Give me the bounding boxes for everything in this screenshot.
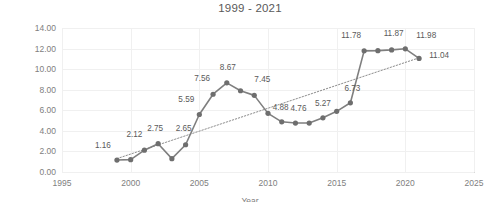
data-point: [210, 92, 215, 97]
data-point-label: 6.73: [332, 84, 372, 93]
data-point: [362, 48, 367, 53]
y-tick-label: 6.00: [10, 105, 56, 115]
data-point-label: 5.59: [166, 95, 206, 104]
data-point-label: 1.16: [83, 141, 123, 150]
data-point: [375, 48, 380, 53]
data-point-label: 11.98: [406, 31, 446, 40]
x-tick-label: 2010: [248, 178, 288, 188]
x-tick-label: 2000: [111, 178, 151, 188]
data-point-label: 2.65: [164, 124, 204, 133]
data-point-label: 5.27: [303, 99, 343, 108]
data-point: [156, 141, 161, 146]
data-point: [320, 115, 325, 120]
data-point-label: 11.78: [331, 31, 371, 40]
plot-area: 1.162.122.752.655.597.568.677.454.884.76…: [62, 28, 474, 172]
series-layer: [62, 28, 474, 172]
data-point: [279, 119, 284, 124]
data-point-label: 8.67: [208, 63, 248, 72]
x-tick-label: 2025: [454, 178, 494, 188]
h-gridline: [62, 172, 474, 173]
x-axis-title: Year: [0, 196, 500, 202]
v-gridline: [474, 28, 475, 172]
x-tick-label: 2015: [317, 178, 357, 188]
y-tick-label: 4.00: [10, 126, 56, 136]
data-point: [307, 120, 312, 125]
data-point: [169, 156, 174, 161]
data-point: [142, 148, 147, 153]
data-point-label: 7.45: [242, 75, 282, 84]
data-point: [403, 46, 408, 51]
data-point: [238, 88, 243, 93]
y-tick-label: 12.00: [10, 44, 56, 54]
y-tick-label: 8.00: [10, 85, 56, 95]
data-point: [183, 142, 188, 147]
data-point: [197, 112, 202, 117]
x-tick-label: 2005: [179, 178, 219, 188]
data-point: [293, 120, 298, 125]
data-point: [334, 109, 339, 114]
data-point: [252, 93, 257, 98]
data-point: [389, 47, 394, 52]
x-tick-label: 2020: [385, 178, 425, 188]
data-point: [128, 157, 133, 162]
chart-title: 1999 - 2021: [0, 2, 500, 14]
data-point-label: 7.56: [182, 74, 222, 83]
data-point-label: 11.04: [419, 51, 459, 60]
data-point: [348, 100, 353, 105]
y-tick-label: 2.00: [10, 146, 56, 156]
y-tick-label: 0.00: [10, 167, 56, 177]
cve-line-chart: 1999 - 2021 1.162.122.752.655.597.568.67…: [0, 0, 500, 202]
data-point: [114, 157, 119, 162]
data-point: [224, 80, 229, 85]
y-tick-label: 10.00: [10, 64, 56, 74]
y-tick-label: 14.00: [10, 23, 56, 33]
x-tick-label: 1995: [42, 178, 82, 188]
